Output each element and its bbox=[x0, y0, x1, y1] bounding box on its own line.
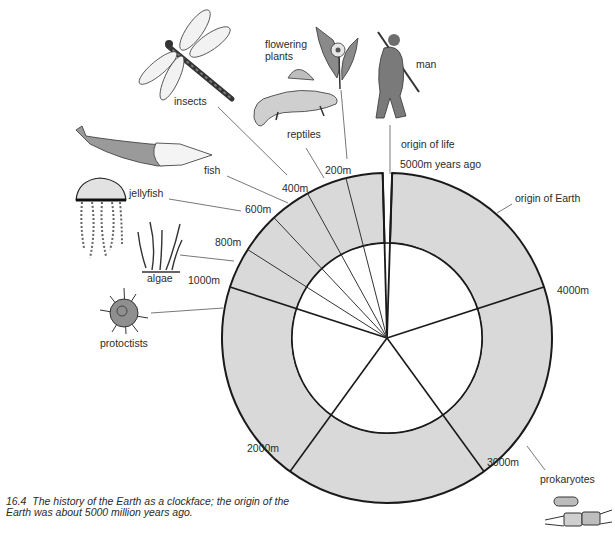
tick-label-3000m: 3000m bbox=[487, 456, 519, 468]
leader-line-reptiles bbox=[306, 148, 324, 178]
leader-line-prokaryotes bbox=[527, 446, 545, 470]
earth-history-clockface-diagram: 5000m years ago4000m3000m2000m1000m800m6… bbox=[0, 0, 615, 534]
event-label-protoctists: protoctists bbox=[100, 337, 148, 349]
event-label-origin-of-Earth: origin of Earth bbox=[515, 192, 581, 204]
leader-line-flowering-plants bbox=[341, 90, 347, 159]
leader-line-jellyfish bbox=[169, 199, 241, 211]
fish-icon bbox=[76, 126, 212, 166]
event-label-insects: insects bbox=[174, 95, 207, 107]
tick-label-400m: 400m bbox=[282, 182, 309, 194]
tick-label-5000m: 5000m years ago bbox=[400, 158, 481, 170]
tick-label-2000m: 2000m bbox=[247, 442, 279, 454]
leader-line-origin-of-Earth bbox=[497, 204, 512, 213]
tick-label-600m: 600m bbox=[245, 203, 272, 215]
flower-icon bbox=[316, 27, 358, 89]
tick-label-800m: 800m bbox=[215, 236, 242, 248]
tick-label-1000m: 1000m bbox=[188, 274, 220, 286]
figure-caption: 16.4 The history of the Earth as a clock… bbox=[6, 496, 306, 518]
event-label-fish: fish bbox=[204, 164, 221, 176]
leader-line-protoctists bbox=[151, 308, 223, 313]
event-label-origin-of-life: origin of life bbox=[401, 138, 455, 150]
leader-line-fish bbox=[227, 176, 288, 203]
event-label-flowering-plants: floweringplants bbox=[265, 38, 307, 62]
protoctist-icon bbox=[100, 288, 148, 334]
event-label-jellyfish: jellyfish bbox=[128, 187, 164, 199]
dragonfly-icon bbox=[135, 6, 234, 103]
jellyfish-icon bbox=[76, 178, 126, 258]
leader-line-algae bbox=[180, 255, 234, 261]
algae-icon bbox=[138, 222, 182, 272]
prokaryote-icon bbox=[545, 497, 612, 526]
caption-text: The history of the Earth as a clockface;… bbox=[6, 495, 289, 518]
event-label-prokaryotes: prokaryotes bbox=[540, 473, 595, 485]
event-label-man: man bbox=[416, 58, 437, 70]
event-label-algae: algae bbox=[147, 272, 173, 284]
event-label-reptiles: reptiles bbox=[287, 128, 321, 140]
caveman-icon bbox=[376, 32, 419, 118]
dimetrodon-reptile-icon bbox=[254, 69, 337, 126]
tick-label-4000m: 4000m bbox=[557, 284, 589, 296]
tick-label-200m: 200m bbox=[325, 164, 352, 176]
